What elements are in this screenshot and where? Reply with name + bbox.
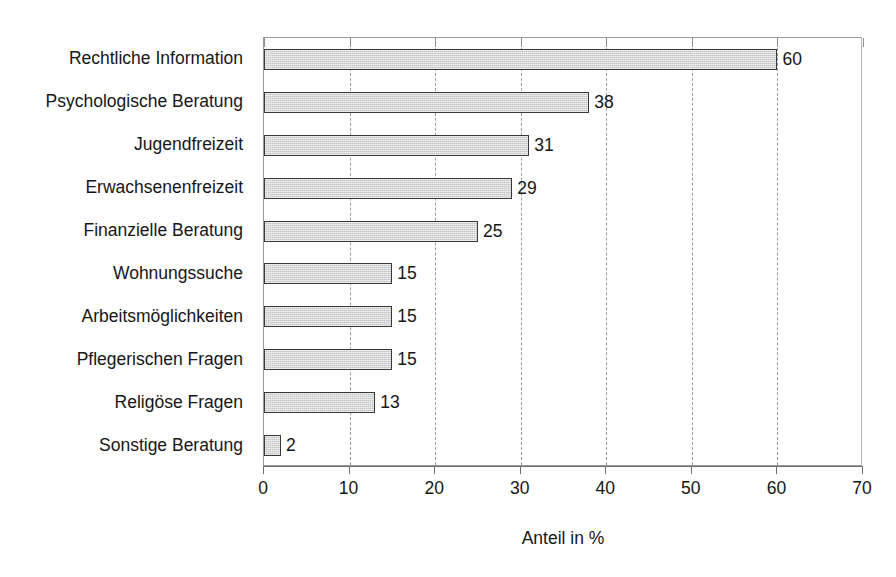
category-label: Psychologische Beratung — [46, 92, 243, 111]
top-axis-tick — [521, 38, 522, 47]
x-axis-tick-label: 20 — [424, 478, 443, 498]
category-label: Pflegerischen Fragen — [77, 350, 243, 369]
bar — [264, 221, 478, 242]
category-label: Sonstige Beratung — [99, 436, 243, 455]
bar-value-label: 25 — [478, 221, 502, 242]
plot-area: 6038312925151515132 — [263, 37, 862, 466]
top-axis-tick — [777, 38, 778, 47]
x-axis-tick — [349, 466, 350, 474]
gridline — [777, 38, 778, 465]
x-axis-tick — [862, 466, 863, 474]
top-axis-tick — [435, 38, 436, 47]
top-axis-tick — [863, 38, 864, 47]
x-axis-tick-label: 40 — [596, 478, 615, 498]
category-label: Finanzielle Beratung — [83, 221, 243, 240]
bar — [264, 349, 392, 370]
bar-value-label: 38 — [589, 92, 613, 113]
bar — [264, 178, 512, 199]
x-axis-tick-label: 0 — [258, 478, 268, 498]
x-axis-tick — [605, 466, 606, 474]
bar-value-label: 60 — [777, 49, 801, 70]
x-axis-tick-label: 50 — [681, 478, 700, 498]
x-axis-tick-label: 60 — [767, 478, 786, 498]
bar-chart: Rechtliche InformationPsychologische Ber… — [0, 0, 896, 577]
category-label: Erwachsenenfreizeit — [85, 178, 243, 197]
bar — [264, 392, 375, 413]
x-axis-tick-label: 70 — [852, 478, 871, 498]
bar — [264, 306, 392, 327]
gridline — [692, 38, 693, 465]
bar — [264, 435, 281, 456]
x-axis-line — [263, 466, 863, 467]
bar-value-label: 31 — [529, 135, 553, 156]
category-label: Religöse Fragen — [115, 393, 243, 412]
bar-value-label: 2 — [281, 435, 296, 456]
category-label: Wohnungssuche — [113, 264, 243, 283]
category-label: Arbeitsmöglichkeiten — [82, 307, 243, 326]
category-label: Jugendfreizeit — [134, 135, 243, 154]
x-axis-tick-label: 10 — [339, 478, 358, 498]
bar — [264, 49, 777, 70]
category-label: Rechtliche Information — [69, 49, 243, 68]
x-axis-tick — [520, 466, 521, 474]
bar-value-label: 15 — [392, 306, 416, 327]
bar — [264, 92, 589, 113]
bar-value-label: 15 — [392, 349, 416, 370]
category-axis-labels: Rechtliche InformationPsychologische Ber… — [0, 38, 253, 466]
plot-inner: 6038312925151515132 — [264, 38, 861, 465]
bar-value-label: 13 — [375, 392, 399, 413]
x-axis-tick-label: 30 — [510, 478, 529, 498]
top-axis-tick — [692, 38, 693, 47]
x-axis-tick — [434, 466, 435, 474]
top-axis-tick — [350, 38, 351, 47]
bar — [264, 263, 392, 284]
bar — [264, 135, 529, 156]
top-axis-tick — [264, 38, 265, 47]
x-axis-tick — [691, 466, 692, 474]
top-axis-tick — [606, 38, 607, 47]
x-axis-tick — [776, 466, 777, 474]
bar-value-label: 15 — [392, 263, 416, 284]
x-axis-title: Anteil in % — [263, 528, 863, 549]
x-axis-tick — [263, 466, 264, 474]
bar-value-label: 29 — [512, 178, 536, 199]
